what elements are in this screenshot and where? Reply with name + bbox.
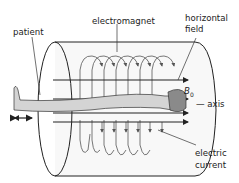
label-patient: patient [13,27,44,37]
label-current: current [195,160,226,170]
label-horizontal: horizontal [185,13,228,23]
label-electric: electric [195,148,227,158]
label-b0: B0 [184,86,194,100]
movement-double-arrow [14,115,32,121]
label-electromagnet: electromagnet [92,16,155,26]
label-axis: — axis [196,99,225,109]
label-field: field [185,24,204,34]
mri-diagram: patient electromagnet horizontal field B… [0,0,239,183]
